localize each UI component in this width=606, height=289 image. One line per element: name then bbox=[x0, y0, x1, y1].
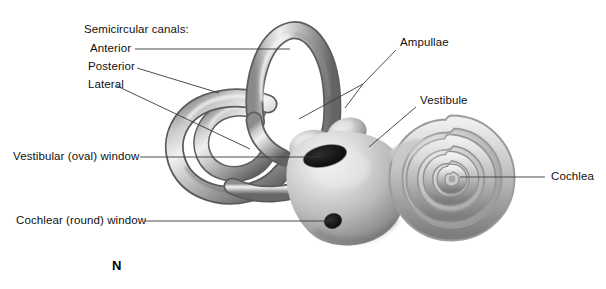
leader-ampullae-branch-b bbox=[345, 84, 363, 108]
vestibule-chamber bbox=[286, 131, 406, 245]
cochlea-spiral bbox=[390, 120, 514, 236]
label-vestibular-oval-window: Vestibular (oval) window bbox=[13, 150, 139, 163]
label-semicircular-canals-heading: Semicircular canals: bbox=[84, 23, 189, 36]
plate-letter: N bbox=[112, 258, 121, 273]
label-posterior: Posterior bbox=[88, 60, 135, 73]
bony-labyrinth-body bbox=[174, 30, 514, 245]
common-crus bbox=[254, 120, 284, 158]
label-ampullae: Ampullae bbox=[400, 36, 449, 49]
label-anterior: Anterior bbox=[90, 42, 131, 55]
label-lateral: Lateral bbox=[88, 78, 124, 91]
anterior-semicircular-canal bbox=[254, 30, 332, 132]
leader-posterior bbox=[137, 68, 219, 93]
figure-canvas: Semicircular canals: Anterior Posterior … bbox=[0, 0, 606, 289]
label-cochlea: Cochlea bbox=[551, 170, 594, 183]
label-cochlear-round-window: Cochlear (round) window bbox=[16, 214, 146, 227]
leader-ampullae-stem bbox=[363, 50, 396, 84]
label-vestibule: Vestibule bbox=[420, 94, 468, 107]
